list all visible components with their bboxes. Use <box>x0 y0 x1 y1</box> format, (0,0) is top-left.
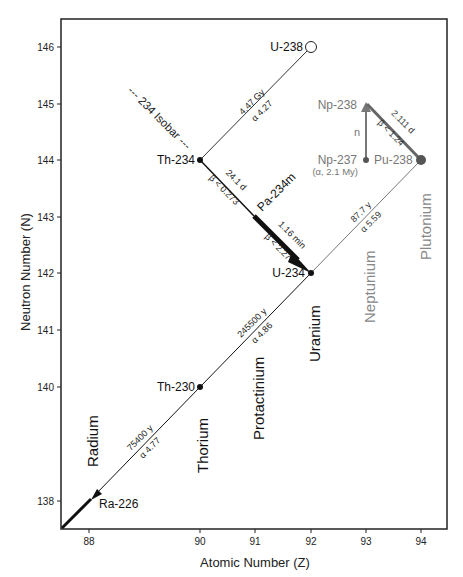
isobar-annotation: --- 234 Isobar --- <box>126 84 194 152</box>
y-axis-label: Neutron Number (N) <box>18 213 33 331</box>
x-tick-label: 93 <box>360 536 372 547</box>
th234-marker <box>197 157 203 163</box>
u238-marker <box>306 42 317 53</box>
x-tick-label: 94 <box>415 536 427 547</box>
x-tick-label: 92 <box>305 536 317 547</box>
x-tick-label: 91 <box>249 536 261 547</box>
u234-label: U-234 <box>272 266 305 280</box>
element-plutonium: Plutonium <box>417 193 434 260</box>
y-tick-label: 145 <box>37 99 54 110</box>
y-tick-label: 140 <box>37 382 54 393</box>
element-neptunium: Neptunium <box>361 250 378 323</box>
ra226-label: Ra-226 <box>99 497 139 511</box>
neutron-label: n <box>354 126 360 138</box>
x-axis: 88 90 91 92 93 94 <box>83 529 427 547</box>
element-radium: Radium <box>84 415 101 467</box>
decay-chain-diagram: 146 145 144 143 142 141 140 138 Neutron … <box>0 0 463 577</box>
u238-label: U-238 <box>270 40 303 54</box>
np238-label: Np-238 <box>318 98 358 112</box>
y-tick-label: 141 <box>37 325 54 336</box>
x-tick-label: 90 <box>194 536 206 547</box>
pa234m-label: Pa-234m <box>254 170 298 214</box>
pu238-label: Pu-238 <box>374 153 413 167</box>
element-protactinium: Protactinium <box>250 357 267 440</box>
th230-marker <box>197 384 203 390</box>
th230-label: Th-230 <box>157 380 195 394</box>
element-uranium: Uranium <box>306 305 323 362</box>
decay-ra226-tail <box>62 499 91 528</box>
np237-note: (α, 2.1 My) <box>312 166 358 177</box>
np237-label: Np-237 <box>318 153 358 167</box>
u234-marker <box>308 270 314 276</box>
y-tick-label: 143 <box>37 212 54 223</box>
x-axis-label: Atomic Number (Z) <box>200 555 310 570</box>
y-tick-label: 138 <box>37 496 54 507</box>
element-thorium: Thorium <box>194 418 211 473</box>
decay-th230-ra226 <box>95 387 200 495</box>
th234-label: Th-234 <box>157 153 195 167</box>
np237-marker <box>363 157 369 163</box>
y-tick-label: 146 <box>37 42 54 53</box>
pu238-marker <box>416 155 426 165</box>
y-tick-label: 144 <box>37 155 54 166</box>
y-tick-label: 142 <box>37 268 54 279</box>
x-tick-label: 88 <box>83 536 95 547</box>
y-axis: 146 145 144 143 142 141 140 138 <box>37 42 61 507</box>
